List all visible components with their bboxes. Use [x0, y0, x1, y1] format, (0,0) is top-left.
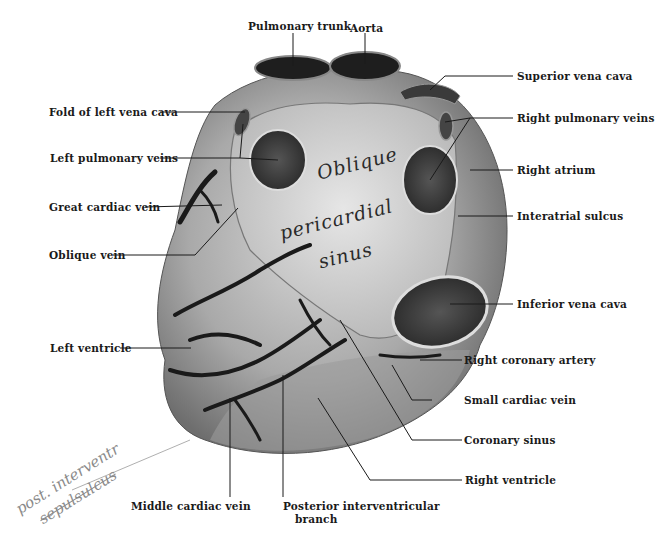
- label-posterior-interventricular-branch: branch: [295, 513, 338, 525]
- label-interatrial-sulcus: Interatrial sulcus: [517, 210, 623, 222]
- label-right-ventricle: Right ventricle: [465, 474, 556, 486]
- label-fold-left-vena-cava: Fold of left vena cava: [49, 106, 178, 118]
- label-right-atrium: Right atrium: [517, 164, 596, 176]
- label-pulmonary-trunk: Pulmonary trunk: [248, 20, 351, 32]
- right-pulmonary-vein-upper: [439, 112, 453, 140]
- label-middle-cardiac-vein: Middle cardiac vein: [131, 500, 251, 512]
- heart-illustration: [0, 0, 661, 553]
- label-left-ventricle: Left ventricle: [50, 342, 132, 354]
- label-small-cardiac-vein: Small cardiac vein: [464, 394, 576, 406]
- label-inferior-vena-cava: Inferior vena cava: [517, 298, 627, 310]
- label-right-pulmonary-veins: Right pulmonary veins: [517, 112, 655, 124]
- label-left-pulmonary-veins: Left pulmonary veins: [50, 152, 178, 164]
- label-oblique-vein: Oblique vein: [49, 249, 126, 261]
- label-aorta: Aorta: [350, 22, 383, 34]
- label-great-cardiac-vein: Great cardiac vein: [49, 201, 160, 213]
- label-right-coronary-artery: Right coronary artery: [464, 354, 596, 366]
- label-coronary-sinus: Coronary sinus: [464, 434, 556, 446]
- label-posterior-interventricular: Posterior interventricular: [283, 500, 440, 512]
- anatomy-figure: Oblique pericardial sinus Pulmonary trun…: [0, 0, 661, 553]
- label-superior-vena-cava: Superior vena cava: [517, 70, 633, 82]
